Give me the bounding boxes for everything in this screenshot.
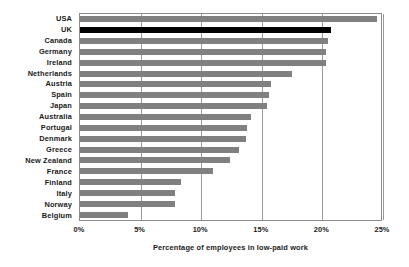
bar [80,168,213,174]
x-tick-label: 5% [134,225,145,234]
category-label: Norway [0,199,76,210]
bar-row [80,79,381,90]
bar [80,49,326,55]
bar-row [80,68,381,79]
bar-row [80,198,381,209]
bar [80,157,230,163]
bar-row [80,36,381,47]
bar [80,114,251,120]
category-label: Finland [0,177,76,188]
category-label: New Zealand [0,155,76,166]
bar-row [80,122,381,133]
category-label: Denmark [0,133,76,144]
x-tick-label: 20% [314,225,329,234]
bar-row [80,177,381,188]
bar-row [80,112,381,123]
x-tick-label: 10% [193,225,208,234]
bar [80,92,269,98]
bar-row [80,57,381,68]
bar-row [80,209,381,220]
bar [80,103,267,109]
category-axis-labels: USAUKCanadaGermanyIrelandNetherlandsAust… [0,13,76,221]
bar [80,125,247,131]
horizontal-bar-chart: USAUKCanadaGermanyIrelandNetherlandsAust… [0,0,409,267]
x-axis-title: Percentage of employees in low-paid work [79,243,382,252]
bar-row [80,14,381,25]
category-label: Italy [0,188,76,199]
category-label: Portugal [0,123,76,134]
bar [80,16,377,22]
plot-area [79,13,382,221]
bar-row [80,90,381,101]
bar-row [80,47,381,58]
category-label: Japan [0,101,76,112]
bar [80,212,128,218]
x-tick-label: 0% [74,225,85,234]
bar-row [80,133,381,144]
category-label: Netherlands [0,68,76,79]
gridline [383,14,384,220]
x-tick-label: 15% [253,225,268,234]
bar-row [80,101,381,112]
category-label: UK [0,24,76,35]
x-axis-tick-labels: 0%5%10%15%20%25% [79,225,382,237]
category-label: Australia [0,112,76,123]
bar [80,190,175,196]
bar-row [80,144,381,155]
bar [80,201,175,207]
category-label: Germany [0,46,76,57]
bar [80,27,331,33]
category-label: Spain [0,90,76,101]
bar [80,38,328,44]
category-label: France [0,166,76,177]
bar [80,60,326,66]
category-label: Belgium [0,210,76,221]
category-label: Austria [0,79,76,90]
bar-row [80,188,381,199]
bar [80,81,271,87]
category-label: Greece [0,144,76,155]
bar [80,147,239,153]
category-label: Ireland [0,57,76,68]
x-tick-label: 25% [374,225,389,234]
bar-row [80,155,381,166]
category-label: USA [0,13,76,24]
bar-row [80,25,381,36]
category-label: Canada [0,35,76,46]
bar-series [80,14,381,220]
bar [80,71,292,77]
bar [80,136,246,142]
bar-row [80,166,381,177]
bar [80,179,181,185]
